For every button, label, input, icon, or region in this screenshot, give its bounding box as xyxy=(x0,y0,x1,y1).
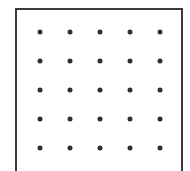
diagram-canvas xyxy=(0,0,190,171)
grid-dot xyxy=(158,117,163,122)
grid-dot xyxy=(38,146,43,151)
grid-dot xyxy=(98,88,103,93)
grid-dot xyxy=(158,146,163,151)
grid-dot xyxy=(98,117,103,122)
grid-dot xyxy=(128,30,133,35)
grid-dot xyxy=(158,88,163,93)
grid-dot xyxy=(98,146,103,151)
grid-dot xyxy=(68,117,73,122)
grid-dot xyxy=(98,30,103,35)
grid-dot xyxy=(38,117,43,122)
grid-dot xyxy=(68,59,73,64)
grid-dot xyxy=(128,146,133,151)
grid-dot xyxy=(68,146,73,151)
grid-dot xyxy=(128,88,133,93)
grid-dot xyxy=(128,117,133,122)
grid-dot xyxy=(158,59,163,64)
grid-dot xyxy=(38,88,43,93)
grid-dot xyxy=(38,59,43,64)
grid-dot xyxy=(68,30,73,35)
grid-dot xyxy=(158,30,163,35)
grid-dot xyxy=(98,59,103,64)
grid-dot xyxy=(68,88,73,93)
grid-dot xyxy=(128,59,133,64)
grid-dot xyxy=(38,30,43,35)
